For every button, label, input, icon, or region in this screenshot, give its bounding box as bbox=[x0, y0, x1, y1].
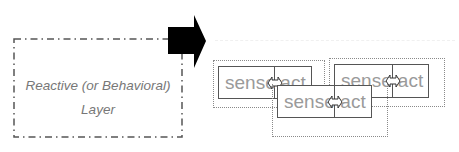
faint-divider bbox=[215, 40, 455, 42]
act-label: act bbox=[340, 91, 365, 113]
right-arrow-icon bbox=[166, 14, 208, 70]
act-label: act bbox=[398, 70, 423, 92]
double-arrow-icon bbox=[327, 94, 343, 110]
layer-label-line1: Reactive (or Behavioral) bbox=[13, 78, 183, 93]
module-front: sense act bbox=[277, 85, 372, 118]
reactive-layer-box: Reactive (or Behavioral) Layer bbox=[13, 38, 183, 138]
layer-label-line2: Layer bbox=[13, 102, 183, 117]
